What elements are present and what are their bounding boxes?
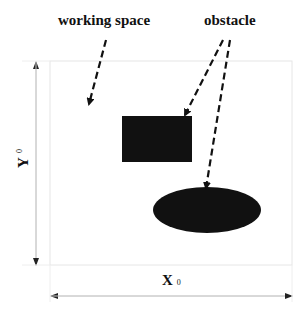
diagram-canvas: working space obstacle X0 Y0 <box>0 0 308 316</box>
x-axis-subscript: 0 <box>177 278 181 287</box>
obstacle-ellipse <box>153 187 261 233</box>
diagram-svg <box>0 0 308 316</box>
working-space-frame <box>50 61 292 265</box>
x0-label: X0 <box>162 272 181 289</box>
obstacle-rectangle <box>122 116 192 162</box>
x-axis-symbol: X <box>162 272 173 288</box>
working-space-label: working space <box>58 12 150 29</box>
y0-label: Y0 <box>15 149 32 168</box>
obstacle-label: obstacle <box>204 12 256 29</box>
y-axis-subscript: 0 <box>15 149 24 153</box>
y-axis-symbol: Y <box>15 157 31 168</box>
